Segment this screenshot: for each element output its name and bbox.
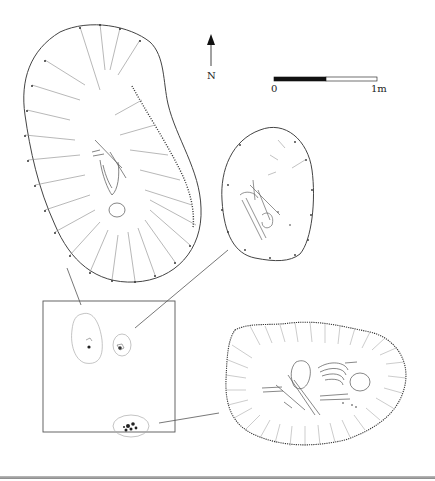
south-east-grave <box>226 322 406 446</box>
bottom-divider <box>0 476 435 479</box>
scale-end-label: 1m <box>371 83 387 94</box>
site-plan-figure <box>0 0 435 481</box>
oval-east-grave <box>221 127 313 260</box>
connector-lines <box>67 250 228 423</box>
north-arrow-icon <box>207 34 215 66</box>
north-label: N <box>207 70 216 81</box>
scale-start-label: 0 <box>271 83 277 94</box>
overview-panel <box>43 301 175 437</box>
scale-bar <box>274 77 377 81</box>
large-north-grave <box>24 24 201 283</box>
